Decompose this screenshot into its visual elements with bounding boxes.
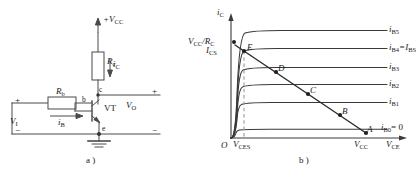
resistor-rc-body — [92, 52, 104, 80]
curve-label-ib2: iB2 — [389, 79, 399, 88]
axis-origin-label: O — [221, 141, 228, 150]
node-dot-emitter — [97, 132, 101, 136]
label-node-b: b — [82, 96, 86, 104]
x-tick-vces: VCES — [233, 140, 250, 149]
output-characteristics-svg — [195, 0, 420, 178]
point-label-a: A — [367, 124, 373, 134]
point-label-e: E — [247, 42, 253, 52]
resistor-rb-body — [48, 97, 76, 109]
curve-ib1 — [231, 103, 387, 139]
arrow-vcc-head — [95, 18, 100, 25]
label-node-e: e — [102, 125, 105, 133]
y-axis-intercept-dot — [232, 40, 236, 44]
point-marker-e — [242, 49, 246, 53]
y-tick-ics: ICS — [206, 46, 217, 55]
characteristic-chart-panel: iC VCC/RC ICS O VCES VCC VCE iB5 iB4=IBS… — [195, 0, 420, 178]
dc-load-line — [235, 45, 366, 133]
curve-label-ib0: iB0= 0 — [381, 123, 403, 132]
curve-label-ib4: iB4=IBS — [389, 43, 416, 52]
point-marker-vcc-rc — [232, 40, 236, 44]
arrow-ic-head — [108, 70, 113, 77]
label-ib: iB — [58, 118, 65, 127]
label-output-plus: + — [152, 87, 157, 96]
label-input-plus: + — [15, 96, 20, 105]
axis-x-arrow — [399, 135, 407, 140]
point-label-d: D — [278, 63, 285, 73]
arrow-ib-head — [76, 113, 83, 118]
label-output-minus: − — [152, 126, 157, 135]
label-transistor-vt: VT — [104, 104, 116, 113]
curve-label-ib1: iB1 — [389, 97, 399, 106]
curve-label-ib3: iB3 — [389, 62, 399, 71]
caption-panel-b: b ) — [299, 155, 309, 165]
y-tick-vcc-over-rc: VCC/RC — [188, 37, 215, 46]
label-vo: VO — [126, 101, 136, 110]
circuit-diagram-panel: +VCC Rc iC Rb iB VI VO VT b c e + − + − … — [0, 0, 200, 178]
label-input-minus: − — [15, 126, 20, 135]
label-rb: Rb — [56, 87, 65, 96]
label-vcc: +VCC — [103, 15, 123, 24]
point-label-b: B — [342, 106, 348, 116]
point-label-c: C — [310, 85, 316, 95]
x-tick-vcc: VCC — [354, 140, 368, 149]
axis-label-vce: VCE — [386, 140, 400, 149]
curve-ib0 — [231, 129, 387, 138]
label-ic: iC — [113, 60, 120, 69]
label-node-c: c — [99, 86, 102, 94]
figure-root: +VCC Rc iC Rb iB VI VO VT b c e + − + − … — [0, 0, 420, 178]
curve-label-ib5: iB5 — [389, 25, 399, 34]
axis-y-arrow — [228, 13, 233, 21]
axis-label-ic: iC — [217, 8, 224, 17]
caption-panel-a: a ) — [86, 155, 95, 165]
